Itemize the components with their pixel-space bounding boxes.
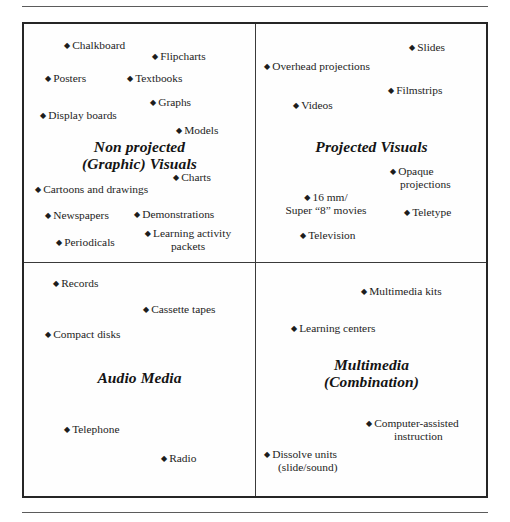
diamond-bullet-icon: ◆ (45, 211, 53, 220)
diamond-bullet-icon: ◆ (293, 101, 301, 110)
item-demonstrations: ◆Demonstrations (134, 208, 214, 221)
item-label-line-2: projections (390, 178, 476, 191)
diamond-bullet-icon: ◆ (145, 229, 153, 238)
item-compact-disks: ◆Compact disks (45, 328, 121, 341)
item-label: Graphs (158, 96, 191, 108)
item-label: Telephone (72, 423, 119, 435)
diamond-bullet-icon: ◆ (361, 287, 369, 296)
item-label: Cartoons and drawings (43, 183, 148, 195)
heading-line-2: (Combination) (256, 373, 487, 390)
quadrant-multimedia-combination: ◆Multimedia kits ◆Learning centers Multi… (256, 263, 487, 501)
item-label: 16 mm/ (313, 191, 348, 203)
diamond-bullet-icon: ◆ (300, 231, 308, 240)
heading-line-1: Multimedia (334, 356, 409, 373)
item-label: Chalkboard (72, 39, 125, 51)
heading-line-1: Audio Media (97, 369, 181, 386)
diamond-bullet-icon: ◆ (53, 279, 61, 288)
diamond-bullet-icon: ◆ (173, 173, 181, 182)
diamond-bullet-icon: ◆ (143, 305, 151, 314)
item-label: Charts (181, 171, 211, 183)
item-label: Videos (301, 99, 333, 111)
item-label: Textbooks (135, 72, 182, 84)
item-periodicals: ◆Periodicals (56, 236, 115, 249)
diamond-bullet-icon: ◆ (409, 43, 417, 52)
quadrant-heading-non-projected: Non projected (Graphic) Visuals (24, 138, 255, 172)
item-overhead-projections: ◆Overhead projections (264, 60, 370, 73)
item-label: Opaque (398, 165, 433, 177)
item-slides: ◆Slides (409, 41, 445, 54)
diamond-bullet-icon: ◆ (264, 62, 272, 71)
item-label: Learning activity (153, 227, 231, 239)
item-posters: ◆Posters (45, 72, 86, 85)
item-computer-assisted-instruction: ◆Computer-assistedinstruction (366, 417, 484, 443)
diamond-bullet-icon: ◆ (40, 111, 48, 120)
item-label: Overhead projections (272, 60, 370, 72)
item-television: ◆Television (300, 229, 355, 242)
item-label: Filmstrips (396, 84, 442, 96)
diamond-bullet-icon: ◆ (264, 450, 272, 459)
quadrant-non-projected-graphic-visuals: ◆Chalkboard ◆Flipcharts ◆Posters ◆Textbo… (24, 24, 255, 262)
item-learning-activity-packets: ◆Learning activitypackets (134, 227, 242, 253)
diamond-bullet-icon: ◆ (176, 126, 184, 135)
diamond-bullet-icon: ◆ (390, 167, 398, 176)
diamond-bullet-icon: ◆ (304, 193, 312, 202)
item-textbooks: ◆Textbooks (127, 72, 182, 85)
item-label-line-2: packets (134, 240, 242, 253)
heading-line-2: (Graphic) Visuals (24, 155, 255, 172)
item-label: Multimedia kits (369, 285, 441, 297)
item-label: Flipcharts (160, 50, 206, 62)
item-display-boards: ◆Display boards (40, 109, 117, 122)
item-label: Display boards (48, 109, 117, 121)
item-multimedia-kits: ◆Multimedia kits (361, 285, 442, 298)
quadrant-heading-projected-visuals: Projected Visuals (256, 138, 487, 155)
item-flipcharts: ◆Flipcharts (152, 50, 206, 63)
diamond-bullet-icon: ◆ (388, 86, 396, 95)
item-label: Dissolve units (272, 448, 337, 460)
item-dissolve-units-slide-sound: ◆Dissolve units(slide/sound) (264, 448, 374, 474)
diamond-bullet-icon: ◆ (404, 208, 412, 217)
item-label: Computer-assisted (374, 417, 459, 429)
item-models: ◆Models (176, 124, 218, 137)
item-label: Periodicals (64, 236, 115, 248)
item-label: Posters (53, 72, 86, 84)
item-graphs: ◆Graphs (150, 96, 191, 109)
item-chalkboard: ◆Chalkboard (64, 39, 125, 52)
item-label-line-2: instruction (366, 430, 484, 443)
media-classification-matrix: ◆Chalkboard ◆Flipcharts ◆Posters ◆Textbo… (22, 22, 488, 498)
item-label: Compact disks (53, 328, 120, 340)
item-label: Records (61, 277, 98, 289)
diamond-bullet-icon: ◆ (35, 185, 43, 194)
item-label: Slides (417, 41, 445, 53)
item-telephone: ◆Telephone (64, 423, 119, 436)
diamond-bullet-icon: ◆ (150, 98, 158, 107)
item-label: Cassette tapes (151, 303, 215, 315)
diamond-bullet-icon: ◆ (45, 74, 53, 83)
item-label: Demonstrations (142, 208, 214, 220)
heading-line-1: Non projected (94, 138, 185, 155)
item-opaque-projections: ◆Opaqueprojections (390, 165, 476, 191)
page-rule-bottom (22, 512, 488, 513)
quadrant-audio-media: ◆Records ◆Cassette tapes ◆Compact disks … (24, 263, 255, 501)
item-label: Radio (169, 452, 196, 464)
diamond-bullet-icon: ◆ (56, 238, 64, 247)
item-label: Models (184, 124, 218, 136)
item-filmstrips: ◆Filmstrips (388, 84, 442, 97)
item-records: ◆Records (53, 277, 98, 290)
diamond-bullet-icon: ◆ (127, 74, 135, 83)
quadrant-projected-visuals: ◆Slides ◆Overhead projections ◆Filmstrip… (256, 24, 487, 262)
item-label: Teletype (412, 206, 451, 218)
diamond-bullet-icon: ◆ (134, 210, 142, 219)
diamond-bullet-icon: ◆ (64, 41, 72, 50)
diamond-bullet-icon: ◆ (161, 454, 169, 463)
diamond-bullet-icon: ◆ (152, 52, 160, 61)
quadrant-heading-multimedia: Multimedia (Combination) (256, 356, 487, 390)
item-videos: ◆Videos (293, 99, 333, 112)
item-teletype: ◆Teletype (404, 206, 451, 219)
item-label: Newspapers (53, 209, 109, 221)
item-radio: ◆Radio (161, 452, 196, 465)
item-label: Television (308, 229, 355, 241)
item-label-line-2: Super “8” movies (266, 204, 386, 217)
item-16mm-super-8-movies: ◆16 mm/Super “8” movies (266, 191, 386, 217)
item-newspapers: ◆Newspapers (45, 209, 109, 222)
page-rule-top (22, 6, 488, 7)
